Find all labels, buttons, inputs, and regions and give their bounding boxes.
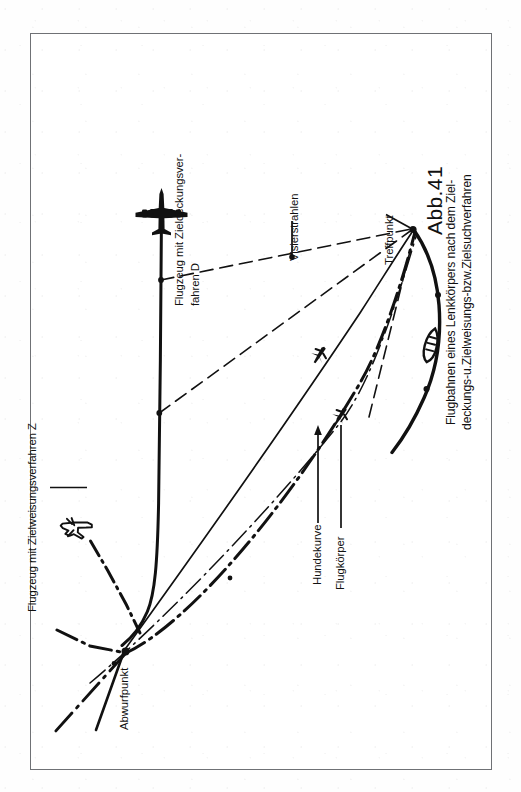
node-dot-dashdot-mid [228, 576, 233, 581]
node-dot-curve-lower [424, 386, 430, 392]
figure-caption-line-1: Flugbahnen eines Lenkkörpers nach dem Zi… [445, 180, 458, 425]
label-launch-point: Abwurfpunkt [118, 668, 130, 730]
missile-marker-icon-lower [329, 404, 352, 428]
path-visierstrahl-2 [159, 231, 411, 414]
leader-hundekurve-arrow [314, 425, 322, 435]
label-aircraft-d-line1: Flugzeug mit Zieldeckungsver- [173, 154, 185, 306]
label-sight-rays: Visierstrahlen [288, 194, 300, 261]
label-impact-point: Treffpunkt [383, 215, 395, 265]
label-pursuit-curve: Hundekurve [311, 525, 323, 585]
path-aircraft-d [122, 214, 162, 646]
node-abwurfpunkt-dot [122, 648, 130, 656]
node-dot-curve-upper [435, 292, 441, 298]
technical-diagram [30, 33, 492, 770]
path-zielweisung-z [57, 232, 415, 653]
label-missile: Flugkörper [334, 537, 346, 590]
figure-caption-line-2: deckungs-u.Zielweisungs-bzw.Zielsuchverf… [461, 174, 474, 430]
label-aircraft-z: Flugzeug mit Zielweisungsverfahren Z [26, 423, 38, 612]
trajectory-layer [54, 214, 441, 734]
path-fighter-approach [91, 541, 141, 633]
label-aircraft-d-line2: fahren D [189, 263, 201, 306]
node-dot-ray2 [156, 410, 162, 416]
node-treffpunkt [409, 226, 416, 233]
missile-marker-icon-upper [308, 343, 331, 367]
node-abwurfpunkt-dot2 [112, 661, 117, 666]
leader-layer [50, 215, 411, 674]
node-dot-ray1 [158, 277, 164, 283]
page-canvas: Flugzeug mit Zielweisungsverfahren Z Flu… [0, 0, 521, 792]
fighter-aircraft-icon [59, 516, 93, 540]
path-hundekurve [125, 233, 412, 650]
